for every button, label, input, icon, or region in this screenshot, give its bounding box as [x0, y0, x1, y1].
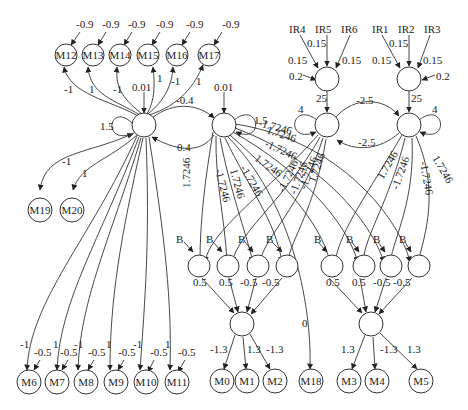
weight-label: -1 [171, 75, 180, 87]
svg-text:M5: M5 [413, 375, 429, 387]
node-m14[interactable]: M14 [109, 44, 131, 66]
node-m6[interactable]: M6 [17, 370, 41, 394]
edge-bias-m14 [124, 32, 132, 45]
bias-label: B [399, 233, 406, 245]
node-m12[interactable]: M12 [55, 44, 77, 66]
weight-label: 0.15 [307, 37, 327, 49]
node-a[interactable] [132, 113, 156, 137]
edge-a-m12 [64, 67, 138, 116]
node-m4[interactable]: M4 [365, 369, 389, 393]
node-m10[interactable]: M10 [134, 370, 158, 394]
weight-label: -0.4 [176, 94, 194, 106]
bias-label: B [206, 233, 213, 245]
weight-label: 0.01 [214, 81, 233, 93]
edge-B-h4 [272, 242, 282, 252]
svg-text:M7: M7 [49, 376, 65, 388]
node-m8[interactable]: M8 [74, 370, 98, 394]
weight-label: 0 [302, 317, 308, 329]
node-m3[interactable]: M3 [337, 369, 361, 393]
edge-bias-m9 [118, 360, 124, 370]
svg-text:M14: M14 [110, 49, 131, 61]
node-m20[interactable]: M20 [60, 198, 84, 222]
weight-label: 1 [157, 72, 163, 84]
weight-label: -1 [20, 338, 29, 350]
edge-bias-m17 [214, 32, 222, 45]
hidden-node-8[interactable] [408, 255, 430, 277]
svg-text:M6: M6 [21, 376, 37, 388]
bias-label: B [373, 233, 380, 245]
labels: IR4 IR5 IR6 IR1 IR2 IR3 -0.9 -0.9 -0.9 -… [20, 18, 456, 358]
node-c[interactable] [315, 113, 339, 137]
hidden-node-4[interactable] [276, 255, 298, 277]
edge-a-m9 [110, 138, 143, 370]
weight-label: 1.3 [247, 343, 261, 355]
weight-label: -1.3 [210, 343, 228, 355]
weight-label: 1.7246 [253, 152, 285, 179]
node-m13[interactable]: M13 [82, 44, 104, 66]
weight-label: -0.5 [393, 276, 411, 288]
hidden-node-1[interactable] [188, 255, 210, 277]
output-node-left[interactable] [230, 312, 254, 336]
weight-label: -2.5 [356, 94, 374, 106]
node-m15[interactable]: M15 [137, 44, 159, 66]
svg-text:M11: M11 [167, 376, 187, 388]
hidden-node-5[interactable] [321, 255, 343, 277]
node-m17[interactable]: M17 [198, 44, 220, 66]
weight-label: 0.5 [219, 276, 233, 288]
node-m2[interactable]: M2 [263, 369, 287, 393]
edge-self-d [419, 115, 441, 135]
node-d-input[interactable] [397, 67, 421, 91]
edge-bias-m8 [88, 360, 94, 370]
svg-text:M12: M12 [56, 49, 77, 61]
bias-label: B [176, 233, 183, 245]
weight-label: 1.7246 [180, 157, 192, 188]
hidden-node-6[interactable] [353, 255, 375, 277]
node-m16[interactable]: M16 [166, 44, 188, 66]
neural-network-diagram: M12 M13 M14 M15 M16 M17 M19 M20 M6 M7 M8 [0, 0, 468, 410]
weight-label: 0.15 [372, 54, 392, 66]
weight-label: -0.9 [102, 18, 120, 30]
hidden-node-2[interactable] [217, 255, 239, 277]
weight-label: 25 [316, 92, 328, 104]
node-m0[interactable]: M0 [210, 369, 234, 393]
hidden-node-7[interactable] [380, 255, 402, 277]
node-m19[interactable]: M19 [28, 198, 52, 222]
output-node-right[interactable] [359, 312, 383, 336]
node-m7[interactable]: M7 [45, 370, 69, 394]
weight-label: -1.3 [266, 343, 284, 355]
input-label-ir6: IR6 [341, 23, 358, 35]
hidden-node-3[interactable] [247, 255, 269, 277]
weight-label: -0.5 [262, 276, 280, 288]
weight-label: 0.5 [352, 276, 366, 288]
edge-a-m7 [57, 137, 139, 370]
weight-label: 0.15 [288, 54, 308, 66]
node-m1[interactable]: M1 [235, 369, 259, 393]
weight-label: 0.5 [193, 276, 207, 288]
node-m5[interactable]: M5 [409, 369, 433, 393]
svg-text:M10: M10 [136, 376, 157, 388]
bias-label: B [346, 233, 353, 245]
node-d[interactable] [397, 113, 421, 137]
weight-label: -2.5 [358, 136, 376, 148]
input-label-ir1: IR1 [372, 23, 389, 35]
node-c-input[interactable] [315, 67, 339, 91]
weight-label: 1 [196, 75, 202, 87]
weight-label: 1 [82, 167, 88, 179]
weight-label: -1 [62, 155, 71, 167]
weight-label: -1.3 [380, 343, 398, 355]
weight-label: -0.5 [118, 346, 136, 358]
weight-label: -0.5 [150, 346, 168, 358]
node-b[interactable] [212, 113, 236, 137]
node-m9[interactable]: M9 [104, 370, 128, 394]
svg-text:M19: M19 [30, 204, 51, 216]
node-m11[interactable]: M11 [165, 370, 189, 394]
edge-bias-c-in [303, 75, 316, 80]
edge-bias-m15 [152, 32, 160, 45]
weight-label: 1 [53, 338, 59, 350]
bias-label: B [238, 233, 245, 245]
svg-text:M17: M17 [199, 49, 220, 61]
node-m18[interactable]: M18 [299, 369, 323, 393]
input-label-ir5: IR5 [315, 23, 332, 35]
edge-o1-m1 [243, 337, 246, 369]
weight-label: 0.4 [177, 141, 191, 153]
